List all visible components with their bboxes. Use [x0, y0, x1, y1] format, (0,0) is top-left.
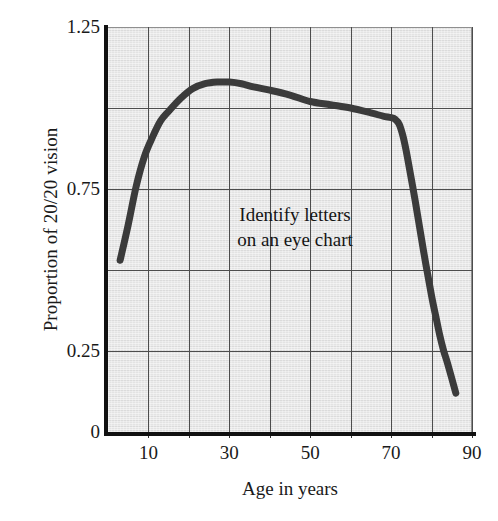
chart-annotation: Identify letters on an eye chart [190, 202, 400, 252]
x-axis-title-text: Age in years [242, 478, 338, 499]
x-tick-label: 50 [280, 442, 340, 464]
x-tick-label: 90 [442, 442, 498, 464]
y-tick-label: 0 [38, 422, 100, 441]
chart-figure: Proportion of 20/20 vision 1.250.750.250… [0, 0, 498, 521]
y-axis-tick-labels: 1.250.750.250 [30, 0, 100, 460]
y-tick-label: 1.25 [38, 17, 100, 36]
x-tick-label: 30 [199, 442, 259, 464]
y-axis-spine [104, 25, 108, 436]
y-tick-label: 0.75 [38, 179, 100, 198]
annotation-line-1: Identify letters [190, 202, 400, 227]
x-axis-title: Age in years [108, 478, 472, 500]
plot-area: Identify letters on an eye chart [108, 27, 472, 432]
x-tick-label: 10 [118, 442, 178, 464]
x-axis-spine [104, 432, 476, 436]
y-tick-label: 0.25 [38, 341, 100, 360]
x-tick-label: 70 [361, 442, 421, 464]
gridline-vertical [472, 27, 473, 432]
annotation-line-2: on an eye chart [190, 227, 400, 252]
